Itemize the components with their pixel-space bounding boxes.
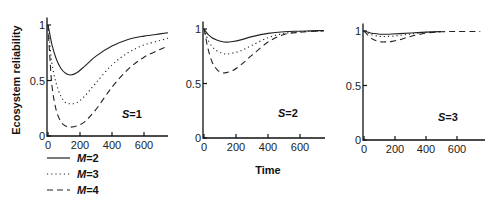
panel-label: S=2	[278, 107, 298, 119]
axis-lines	[363, 24, 485, 140]
x-tick-label: 600	[448, 143, 466, 155]
y-tick-label: 0.5	[30, 75, 45, 87]
x-tick-label: 600	[135, 139, 153, 151]
y-tick-label: 1	[355, 25, 361, 37]
legend-label: M=2	[77, 152, 99, 164]
legend-label: M=4	[77, 184, 100, 196]
x-tick-label: 400	[417, 143, 435, 155]
panel-s1: 00.510200400600S=1	[30, 17, 168, 151]
x-tick-label: 400	[103, 139, 121, 151]
x-tick-label: 200	[227, 141, 245, 153]
panel-label: S=1	[122, 108, 142, 120]
panel-label: S=3	[438, 111, 458, 123]
series-line-m2	[204, 29, 324, 42]
panel-s2: 00.510200400600S=2	[186, 22, 325, 153]
series-line-m4	[204, 29, 324, 73]
figure-three-panel-reliability: Ecosystem reliability Time 00.5102004006…	[0, 0, 501, 206]
y-axis-title: Ecosystem reliability	[10, 24, 22, 134]
x-tick-label: 0	[201, 141, 207, 153]
x-tick-label: 0	[361, 143, 367, 155]
x-tick-label: 200	[71, 139, 89, 151]
x-tick-label: 600	[291, 141, 309, 153]
x-tick-label: 400	[259, 141, 277, 153]
legend: M=2M=3M=4	[47, 152, 100, 196]
x-tick-label: 200	[386, 143, 404, 155]
series-line-m4	[48, 25, 168, 127]
x-axis-title: Time	[255, 164, 280, 176]
x-tick-label: 0	[45, 139, 51, 151]
legend-label: M=3	[77, 168, 99, 180]
series-line-m2	[48, 25, 168, 75]
y-tick-label: 1	[39, 19, 45, 31]
y-tick-label: 1	[195, 23, 201, 35]
y-tick-label: 0.5	[346, 80, 361, 92]
panel-s3: 00.510200400600S=3	[346, 24, 485, 155]
y-tick-label: 0.5	[186, 78, 201, 90]
